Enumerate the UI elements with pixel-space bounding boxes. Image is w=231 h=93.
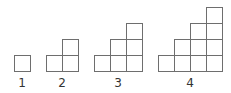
- square-cell: [206, 23, 223, 40]
- square-cell: [174, 39, 191, 56]
- square-cell: [206, 7, 223, 24]
- square-cell: [94, 55, 111, 72]
- square-cell: [206, 55, 223, 72]
- square-cell: [110, 55, 127, 72]
- square-cell: [158, 55, 175, 72]
- square-cell: [14, 55, 31, 72]
- figure-label: 1: [18, 77, 26, 89]
- square-cell: [126, 39, 143, 56]
- figure-label: 3: [114, 77, 122, 89]
- square-cell: [190, 55, 207, 72]
- square-cell: [190, 39, 207, 56]
- square-cell: [126, 23, 143, 40]
- square-cell: [206, 39, 223, 56]
- figure-label: 4: [186, 77, 194, 89]
- square-cell: [62, 39, 79, 56]
- square-cell: [126, 55, 143, 72]
- square-cell: [174, 55, 191, 72]
- square-cell: [46, 55, 63, 72]
- square-cell: [190, 23, 207, 40]
- figure-label: 2: [58, 77, 66, 89]
- square-cell: [62, 55, 79, 72]
- square-cell: [110, 39, 127, 56]
